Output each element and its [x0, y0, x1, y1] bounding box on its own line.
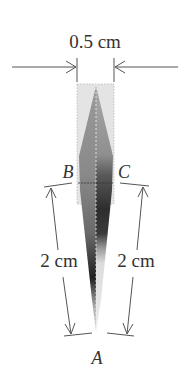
width-arrow-right: [115, 61, 178, 73]
width-label: 0.5 cm: [69, 31, 121, 52]
point-a-label: A: [91, 348, 104, 368]
width-arrow-left: [12, 61, 76, 73]
point-c-label: C: [118, 162, 131, 182]
right-length-label: 2 cm: [117, 250, 155, 271]
diagram-canvas: 0.5 cm B C A 2 cm 2 cm: [0, 0, 190, 369]
left-length-label: 2 cm: [40, 250, 78, 271]
point-b-label: B: [63, 162, 74, 182]
